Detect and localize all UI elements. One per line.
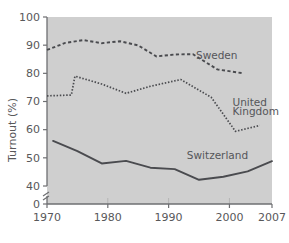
y-tick-label-60: 60 bbox=[26, 123, 40, 136]
y-axis-ticks: 0405060708090100 bbox=[19, 11, 47, 211]
annotation-switzerland: Switzerland bbox=[187, 149, 248, 161]
y-tick-label-80: 80 bbox=[26, 67, 40, 80]
annotation-sweden: Sweden bbox=[196, 49, 238, 61]
x-axis-ticks: 19701980199020002007 bbox=[33, 204, 286, 224]
annotation-kingdom: Kingdom bbox=[232, 105, 278, 117]
x-tick-label-1990: 1990 bbox=[155, 211, 183, 224]
y-axis-title: Turnout (%) bbox=[6, 98, 19, 163]
chart-container: 0405060708090100 19701980199020002007 Sw… bbox=[0, 0, 289, 243]
turnout-line-chart: 0405060708090100 19701980199020002007 Sw… bbox=[0, 0, 289, 243]
y-tick-label-100: 100 bbox=[19, 11, 40, 24]
y-tick-label-70: 70 bbox=[26, 95, 40, 108]
x-tick-label-2000: 2000 bbox=[215, 211, 243, 224]
y-tick-label-0: 0 bbox=[33, 198, 40, 211]
y-tick-label-50: 50 bbox=[26, 152, 40, 165]
x-tick-label-1970: 1970 bbox=[33, 211, 61, 224]
y-tick-label-40: 40 bbox=[26, 180, 40, 193]
x-tick-label-2007: 2007 bbox=[258, 211, 286, 224]
x-tick-label-1980: 1980 bbox=[94, 211, 122, 224]
y-tick-label-90: 90 bbox=[26, 39, 40, 52]
